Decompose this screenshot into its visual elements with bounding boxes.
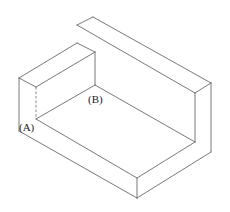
isometric-diagram: (A) (B) — [0, 0, 230, 212]
top-slab-right — [195, 83, 211, 93]
left-block-top-back — [19, 43, 77, 78]
left-block-top-left — [19, 78, 36, 87]
label-b: (B) — [88, 93, 103, 106]
top-slab-back-left — [77, 17, 93, 25]
base-bottom-right — [137, 152, 211, 198]
visible-edges — [19, 17, 211, 198]
left-block-top-front — [36, 52, 95, 87]
base-bottom-left — [19, 131, 137, 198]
top-slab-back — [93, 17, 211, 83]
floor-back-right — [95, 85, 195, 142]
floor-front-right — [137, 142, 195, 178]
floor-back-left — [36, 85, 95, 119]
left-block-top-right — [77, 43, 95, 52]
label-a: (A) — [19, 121, 35, 134]
